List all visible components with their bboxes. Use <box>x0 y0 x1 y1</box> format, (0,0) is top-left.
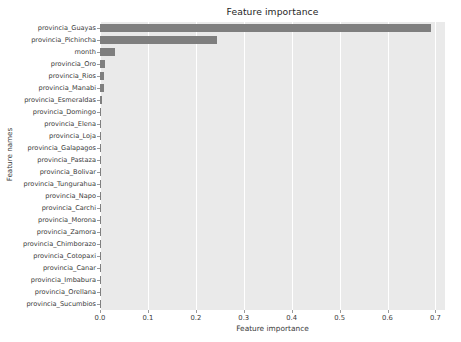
y-tick-label: provincia_Domingo <box>33 108 96 116</box>
x-tick-mark <box>388 310 389 313</box>
y-tick-mark <box>97 136 100 137</box>
y-tick-label: provincia_Canar <box>43 264 96 272</box>
y-tick-label: provincia_Pastaza <box>37 156 96 164</box>
y-tick-label: provincia_Imbabura <box>31 276 96 284</box>
bar <box>100 108 101 115</box>
y-tick-label: provincia_Guayas <box>38 24 96 32</box>
y-tick-mark <box>97 268 100 269</box>
y-tick-mark <box>97 292 100 293</box>
y-tick-label: provincia_Elena <box>44 120 96 128</box>
y-axis-tick-labels: provincia_Guayasprovincia_Pichinchamonth… <box>0 22 96 310</box>
bar-series <box>100 22 445 310</box>
x-tick-label: 0.1 <box>143 314 154 322</box>
bar <box>100 144 101 151</box>
bar <box>100 36 217 43</box>
y-tick-label: provincia_Carchi <box>42 204 96 212</box>
x-tick-mark <box>244 310 245 313</box>
y-tick-mark <box>97 280 100 281</box>
y-tick-label: provincia_Manabi <box>39 84 96 92</box>
y-tick-mark <box>97 196 100 197</box>
x-tick-mark <box>196 310 197 313</box>
bar <box>100 132 101 139</box>
x-tick-label: 0.4 <box>286 314 297 322</box>
x-tick-mark <box>435 310 436 313</box>
bar <box>100 48 115 55</box>
bar <box>100 96 102 103</box>
x-tick-mark <box>148 310 149 313</box>
x-axis-title: Feature importance <box>100 324 445 333</box>
bar <box>100 120 101 127</box>
x-tick-label: 0.3 <box>238 314 249 322</box>
plot-area <box>100 22 445 310</box>
y-tick-label: provincia_Morona <box>38 216 96 224</box>
y-tick-mark <box>97 28 100 29</box>
y-tick-mark <box>97 208 100 209</box>
y-tick-mark <box>97 160 100 161</box>
y-tick-mark <box>97 304 100 305</box>
y-tick-label: provincia_Bolivar <box>40 168 96 176</box>
bar <box>100 72 104 79</box>
y-tick-label: provincia_Oro <box>51 60 96 68</box>
x-tick-mark <box>100 310 101 313</box>
y-tick-mark <box>97 232 100 233</box>
x-tick-mark <box>340 310 341 313</box>
y-tick-mark <box>97 76 100 77</box>
y-tick-mark <box>97 40 100 41</box>
chart-title: Feature importance <box>100 6 445 17</box>
y-tick-label: provincia_Loja <box>49 132 96 140</box>
y-tick-mark <box>97 124 100 125</box>
bar <box>100 60 105 67</box>
y-tick-mark <box>97 88 100 89</box>
y-tick-label: provincia_Galapagos <box>28 144 96 152</box>
y-tick-label: provincia_Rios <box>49 72 96 80</box>
y-tick-mark <box>97 256 100 257</box>
x-tick-label: 0.6 <box>382 314 393 322</box>
y-tick-label: provincia_Zamora <box>37 228 96 236</box>
y-tick-label: provincia_Esmeraldas <box>24 96 96 104</box>
x-tick-label: 0.0 <box>95 314 106 322</box>
y-tick-label: provincia_Pichincha <box>31 36 96 44</box>
bar <box>100 84 104 91</box>
y-tick-mark <box>97 64 100 65</box>
y-tick-label: provincia_Tungurahua <box>24 180 96 188</box>
y-tick-label: provincia_Chimborazo <box>23 240 96 248</box>
y-tick-mark <box>97 172 100 173</box>
y-tick-label: provincia_Cotopaxi <box>33 252 96 260</box>
y-tick-mark <box>97 244 100 245</box>
y-tick-mark <box>97 112 100 113</box>
y-tick-label: provincia_Napo <box>45 192 96 200</box>
y-tick-label: provincia_Sucumbios <box>26 300 96 308</box>
bar <box>100 24 431 31</box>
y-tick-mark <box>97 184 100 185</box>
y-tick-label: provincia_Orellana <box>35 288 96 296</box>
x-tick-label: 0.7 <box>430 314 441 322</box>
matplotlib-figure: Feature importance provincia_Guayasprovi… <box>0 0 461 342</box>
y-tick-mark <box>97 220 100 221</box>
y-tick-mark <box>97 100 100 101</box>
y-tick-mark <box>97 52 100 53</box>
y-tick-mark <box>97 148 100 149</box>
y-axis-title: Feature names <box>5 110 14 200</box>
y-tick-label: month <box>75 48 96 56</box>
x-tick-label: 0.5 <box>334 314 345 322</box>
x-tick-label: 0.2 <box>190 314 201 322</box>
x-tick-mark <box>292 310 293 313</box>
